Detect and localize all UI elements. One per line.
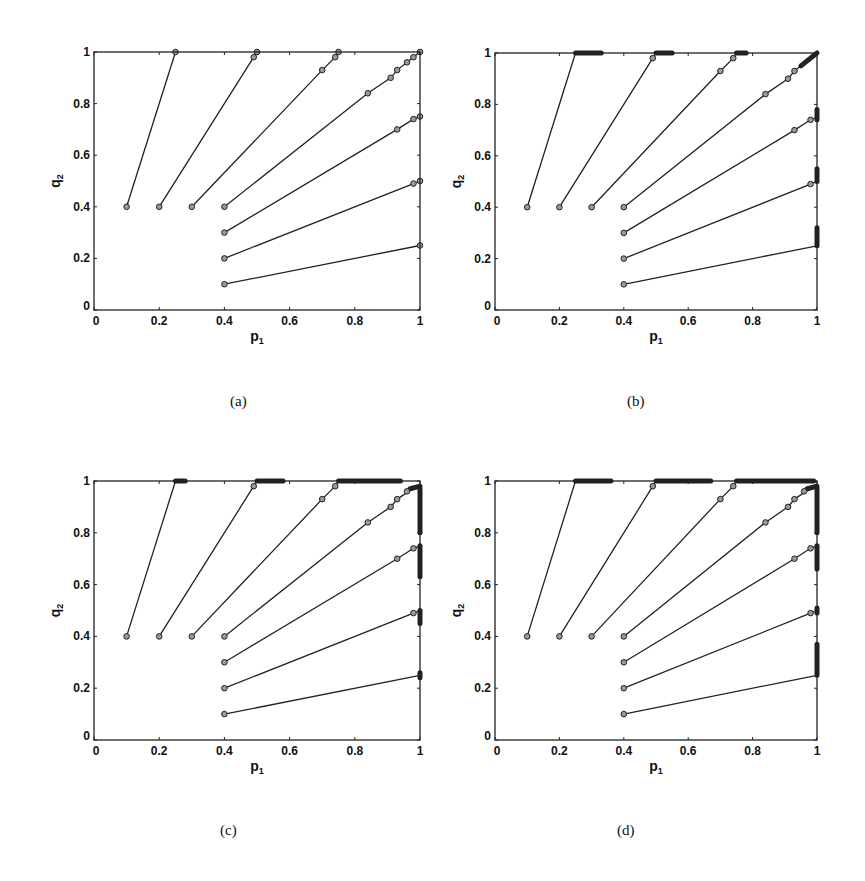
y-tick-label: 0 — [484, 299, 491, 313]
data-marker — [222, 711, 228, 717]
x-tick-label: 0 — [93, 314, 100, 328]
data-marker — [411, 610, 417, 616]
data-marker — [394, 127, 400, 133]
series-traj2 — [156, 49, 259, 209]
x-axis-label: p1 — [250, 758, 264, 776]
series-traj1 — [124, 49, 179, 209]
data-marker — [394, 556, 400, 562]
x-tick-label: 0.4 — [216, 744, 233, 758]
x-tick-label: 1 — [814, 744, 821, 758]
data-marker — [621, 256, 627, 262]
data-marker — [792, 556, 798, 562]
data-marker — [222, 230, 228, 236]
panel-d: 00.20.40.60.8100.20.40.60.81p1q2 — [448, 474, 821, 776]
data-marker — [189, 204, 195, 210]
data-marker — [621, 711, 627, 717]
data-marker — [319, 496, 325, 502]
x-tick-label: 0.4 — [216, 314, 233, 328]
data-marker — [621, 204, 627, 210]
series-traj4 — [621, 53, 817, 210]
x-tick-label: 0.6 — [680, 314, 697, 328]
y-axis-label: q2 — [448, 175, 466, 189]
x-tick-label: 0.8 — [346, 744, 363, 758]
y-tick-label: 0.2 — [73, 251, 90, 265]
y-tick-label: 0 — [484, 729, 491, 743]
y-tick-label: 1 — [484, 46, 491, 60]
data-marker — [801, 489, 807, 495]
data-marker — [365, 90, 371, 96]
series-traj7 — [222, 243, 423, 287]
x-tick-label: 0.8 — [744, 314, 761, 328]
caption-b: (b) — [627, 393, 645, 410]
y-tick-label: 0.8 — [73, 97, 90, 111]
caption-d: (d) — [617, 822, 635, 839]
y-axis-label: q2 — [448, 604, 466, 618]
data-marker — [388, 504, 394, 510]
data-marker — [808, 546, 814, 552]
data-marker — [808, 181, 814, 187]
y-tick-label: 0.2 — [474, 681, 491, 695]
data-marker — [524, 204, 530, 210]
series-traj7 — [621, 644, 817, 717]
y-tick-label: 0.4 — [474, 200, 491, 214]
y-tick-label: 0 — [83, 729, 90, 743]
series-traj3 — [189, 481, 400, 639]
data-marker — [621, 634, 627, 640]
data-marker — [589, 634, 595, 640]
data-marker — [388, 75, 394, 81]
data-marker — [222, 660, 228, 666]
data-marker — [332, 54, 338, 60]
series-traj7 — [222, 673, 420, 717]
data-marker — [621, 282, 627, 288]
data-marker — [650, 483, 656, 489]
data-marker — [557, 634, 563, 640]
x-tick-label: 0.6 — [680, 744, 697, 758]
series-traj5 — [621, 546, 817, 666]
series-traj1 — [124, 481, 185, 639]
data-marker — [189, 634, 195, 640]
data-marker — [411, 181, 417, 187]
data-marker — [718, 496, 724, 502]
y-tick-label: 0.8 — [474, 526, 491, 540]
data-marker — [404, 60, 410, 66]
y-tick-label: 0.8 — [73, 526, 90, 540]
series-traj7 — [621, 228, 817, 287]
data-marker — [785, 504, 791, 510]
data-marker — [411, 54, 417, 60]
data-marker — [589, 204, 595, 210]
data-marker — [156, 634, 162, 640]
data-marker — [251, 54, 257, 60]
data-marker — [411, 546, 417, 552]
x-tick-label: 0.2 — [551, 744, 568, 758]
data-marker — [621, 685, 627, 691]
y-axis-label: q2 — [47, 604, 65, 618]
panel-c: 00.20.40.60.8100.20.40.60.81p1q2 — [47, 474, 424, 776]
series-traj6 — [621, 608, 817, 691]
data-marker — [808, 117, 814, 123]
data-marker — [557, 204, 563, 210]
series-traj6 — [222, 610, 420, 691]
data-marker — [222, 685, 228, 691]
y-tick-label: 0.8 — [474, 97, 491, 111]
data-marker — [792, 127, 798, 133]
panel-b: 00.20.40.60.8100.20.40.60.81p1q2 — [448, 46, 821, 346]
plots-canvas: 00.20.40.60.8100.20.40.60.81p1q200.20.40… — [0, 0, 865, 881]
data-marker — [621, 230, 627, 236]
y-tick-label: 0 — [83, 299, 90, 313]
x-tick-label: 0.2 — [151, 314, 168, 328]
data-marker — [251, 483, 257, 489]
data-marker — [222, 281, 228, 287]
data-marker — [124, 204, 130, 210]
data-marker — [763, 520, 769, 526]
y-axis-label: q2 — [47, 174, 65, 188]
x-tick-label: 0.4 — [615, 314, 632, 328]
data-marker — [621, 660, 627, 666]
y-tick-label: 1 — [484, 474, 491, 488]
figure: 00.20.40.60.8100.20.40.60.81p1q200.20.40… — [0, 0, 865, 881]
series-traj6 — [222, 178, 423, 261]
x-tick-label: 0 — [494, 314, 501, 328]
series-traj3 — [189, 49, 341, 209]
series-traj2 — [557, 481, 711, 639]
data-marker — [404, 489, 410, 495]
x-tick-label: 0.4 — [615, 744, 632, 758]
